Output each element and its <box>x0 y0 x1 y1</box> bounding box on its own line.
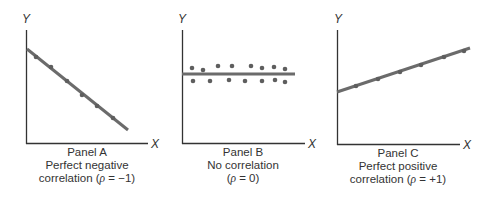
data-point <box>216 64 221 69</box>
panel-b-correlation: (ρ = 0) <box>168 172 318 185</box>
panel-c-caption: Panel C Perfect positive correlation (ρ … <box>323 147 473 186</box>
data-point <box>260 79 265 84</box>
panel-b-y-label: Y <box>178 12 187 26</box>
data-point <box>191 79 196 84</box>
panel-c-title: Panel C <box>323 147 473 160</box>
panel-b-subtitle: No correlation <box>168 159 318 172</box>
panel-c-subtitle: Perfect positive <box>323 160 473 173</box>
data-point <box>80 93 85 98</box>
data-point <box>376 77 381 82</box>
panel-c-y-label: Y <box>334 12 343 26</box>
data-point <box>260 66 265 71</box>
data-point <box>201 68 206 73</box>
panel-b-title: Panel B <box>168 146 318 159</box>
data-point <box>273 78 278 83</box>
panel-a-correlation: correlation (ρ = −1) <box>12 172 162 185</box>
data-point <box>243 79 248 84</box>
data-point <box>34 55 39 60</box>
panel-c-plot: Y X <box>334 12 472 152</box>
panel-b-plot: Y X <box>178 12 317 151</box>
panel-a-y-label: Y <box>22 12 31 26</box>
data-point <box>190 66 195 71</box>
data-point <box>49 65 54 70</box>
data-point <box>442 55 447 60</box>
data-point <box>249 64 254 69</box>
panel-a-title: Panel A <box>12 146 162 159</box>
data-point <box>354 84 359 89</box>
data-point <box>208 79 213 84</box>
data-point <box>111 116 116 121</box>
panel-a-caption: Panel A Perfect negative correlation (ρ … <box>12 146 162 185</box>
data-point <box>65 79 70 84</box>
data-point <box>462 49 467 54</box>
data-point <box>227 78 232 83</box>
panel-c-data <box>337 48 470 92</box>
panel-a-subtitle: Perfect negative <box>12 159 162 172</box>
data-point <box>283 80 288 85</box>
panel-c-correlation: correlation (ρ = +1) <box>323 173 473 186</box>
panel-b-caption: Panel B No correlation (ρ = 0) <box>168 146 318 185</box>
data-point <box>398 70 403 75</box>
panel-b-data <box>182 64 295 85</box>
panel-a-data <box>27 49 128 130</box>
data-point <box>283 67 288 72</box>
data-point <box>95 104 100 109</box>
data-point <box>272 65 277 70</box>
panel-a-plot: Y X <box>22 12 160 151</box>
data-point <box>419 63 424 68</box>
data-point <box>230 64 235 69</box>
